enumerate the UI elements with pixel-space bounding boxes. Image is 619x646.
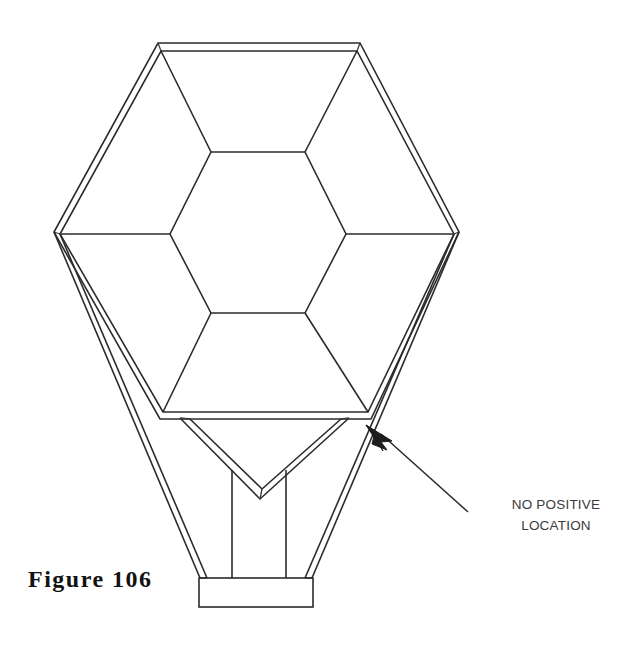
callout-label-line-2: LOCATION [493, 515, 619, 536]
v-yoke [180, 418, 349, 499]
callout-leader-line [381, 434, 468, 512]
callout-arrowhead-icon [366, 425, 392, 451]
figure-caption: Figure 106 [28, 566, 153, 593]
technical-line-drawing [0, 0, 619, 646]
rim-corner-ticks [54, 43, 459, 234]
outer-taper-leg-right [305, 232, 459, 578]
callout-label: NO POSITIVE LOCATION [493, 494, 619, 536]
callout-label-line-1: NO POSITIVE [493, 494, 619, 515]
outer-hexagon-rim-inner [60, 51, 454, 412]
inner-hexagon [170, 152, 346, 313]
base-plate [199, 578, 313, 607]
figure-106-container: NO POSITIVE LOCATION Figure 106 [0, 0, 619, 646]
outer-taper-leg-left [54, 232, 207, 578]
